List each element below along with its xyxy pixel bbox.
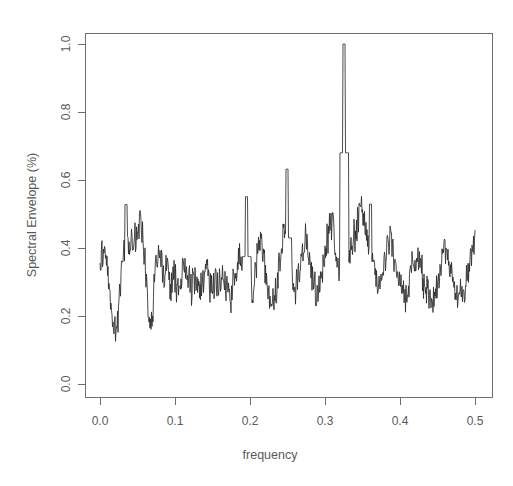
x-axis-tick-labels: 0.0 0.1 0.2 0.3 0.4 0.5 bbox=[92, 414, 484, 428]
y-tick-label-5: 1.0 bbox=[59, 35, 73, 52]
y-tick-label-4: 0.8 bbox=[59, 103, 73, 120]
x-tick-label-4: 0.4 bbox=[392, 414, 409, 428]
x-tick-label-0: 0.0 bbox=[92, 414, 109, 428]
y-axis-title: Spectral Envelope (%) bbox=[25, 153, 39, 277]
x-axis-ticks bbox=[101, 398, 476, 405]
x-axis-title: frequency bbox=[243, 448, 299, 462]
plot-frame bbox=[86, 34, 493, 398]
y-tick-label-3: 0.6 bbox=[59, 171, 73, 188]
x-tick-label-1: 0.1 bbox=[167, 414, 184, 428]
x-tick-label-5: 0.5 bbox=[467, 414, 484, 428]
x-tick-label-3: 0.3 bbox=[317, 414, 334, 428]
y-tick-label-1: 0.2 bbox=[59, 307, 73, 324]
plot-canvas: 0.0 0.2 0.4 0.6 0.8 1.0 0.0 0.1 0.2 0.3 … bbox=[0, 0, 513, 486]
y-axis-ticks bbox=[78, 45, 85, 385]
y-axis-tick-labels: 0.0 0.2 0.4 0.6 0.8 1.0 bbox=[59, 35, 73, 392]
spectral-envelope-figure: 0.0 0.2 0.4 0.6 0.8 1.0 0.0 0.1 0.2 0.3 … bbox=[0, 0, 513, 486]
y-tick-label-0: 0.0 bbox=[59, 375, 73, 392]
spectral-envelope-series bbox=[100, 44, 475, 341]
x-tick-label-2: 0.2 bbox=[242, 414, 259, 428]
y-tick-label-2: 0.4 bbox=[59, 239, 73, 256]
